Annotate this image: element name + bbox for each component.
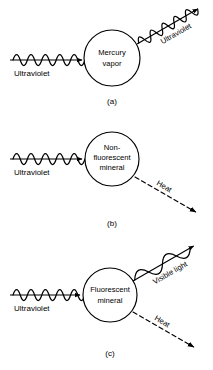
incoming-ray-label-a: Ultraviolet: [14, 69, 50, 78]
node-label-b-line2: fluorescent: [93, 153, 131, 162]
node-label-c-line2: mineral: [98, 296, 123, 305]
incoming-ray-label-b: Ultraviolet: [14, 168, 50, 177]
node-label-a-line1: Mercury: [98, 48, 126, 57]
node-label-c-line1: Fluorescent: [90, 285, 131, 294]
panel-label-b: (b): [107, 219, 117, 228]
node-label-b-line3: mineral: [100, 163, 125, 172]
node-label-a-line2: vapor: [103, 59, 122, 68]
panel-label-c: (c): [105, 349, 115, 358]
node-circle-a: [84, 30, 140, 86]
fluorescence-diagram: Ultraviolet Mercury vapor Ultraviolet (a…: [0, 0, 213, 370]
panel-label-a: (a): [107, 97, 117, 106]
incoming-ray-label-c: Ultraviolet: [14, 304, 50, 313]
node-circle-c: [83, 268, 137, 322]
node-label-b-line1: Non-: [104, 143, 121, 152]
